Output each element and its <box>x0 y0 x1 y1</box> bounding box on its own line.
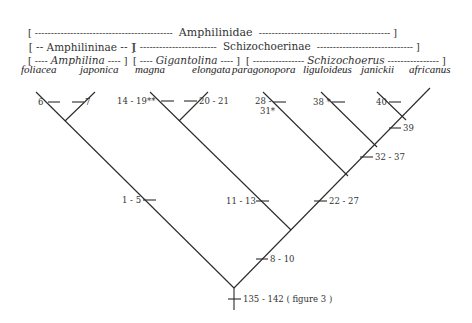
char-elongata: 20 - 21 <box>199 96 229 106</box>
char-paragonopora-b: 31* <box>260 106 275 116</box>
char-foliacea: 6 <box>38 97 43 107</box>
char-39: 39 <box>403 123 414 133</box>
branch-africanus-spine <box>234 88 430 288</box>
branch-foliacea-to-root <box>36 92 234 288</box>
char-janickii: 40 <box>376 97 387 107</box>
branch-japonica <box>65 92 95 121</box>
branch-paragonopora <box>263 92 348 176</box>
char-8-10: 8 - 10 <box>270 254 295 264</box>
char-22-27: 22 - 27 <box>329 196 359 206</box>
char-1-5: 1 - 5 <box>122 195 141 205</box>
char-paragonopora-a: 28 - <box>255 96 271 106</box>
char-liguloideus: 38 * <box>313 97 331 107</box>
char-32-37: 32 - 37 <box>375 152 405 162</box>
char-11-13: 11 - 13 <box>226 196 256 206</box>
char-root: 135 - 142 ( figure 3 ) <box>243 294 332 304</box>
char-magna: 14 - 19** <box>117 96 155 106</box>
char-japonica: 7 <box>85 97 90 107</box>
